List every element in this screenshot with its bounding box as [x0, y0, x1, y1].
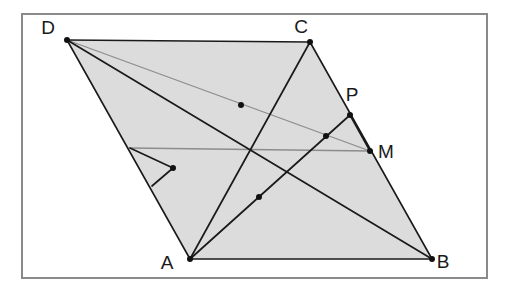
vertex-dot-A	[187, 256, 193, 262]
intersection-dot-3	[170, 165, 176, 171]
label-C: C	[294, 16, 308, 37]
intersection-dot-4	[256, 194, 262, 200]
intersection-dot-2	[323, 133, 329, 139]
vertex-dot-B	[429, 256, 435, 262]
intersection-dot-1	[238, 102, 244, 108]
label-D: D	[41, 17, 55, 38]
vertex-dot-C	[307, 39, 313, 45]
label-B: B	[437, 251, 450, 272]
label-P: P	[346, 84, 359, 105]
label-M: M	[378, 141, 394, 162]
point-dot-P	[347, 112, 353, 118]
geometry-figure-container: D C B A P M	[0, 0, 511, 295]
label-A: A	[161, 252, 174, 273]
geometry-diagram: D C B A P M	[0, 0, 511, 295]
vertex-dot-D	[64, 37, 70, 43]
point-dot-M	[367, 148, 373, 154]
